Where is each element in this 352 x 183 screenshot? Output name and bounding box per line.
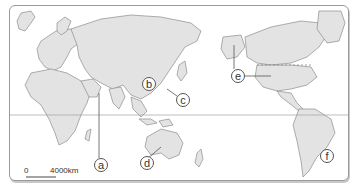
land-alaska [221,35,245,59]
map-label-c: c [176,93,190,107]
land-south-america [293,109,335,177]
map-label-b: b [142,77,156,91]
scale-start-label: 0 [24,166,28,175]
map-label-a: a [94,158,108,172]
map-frame: a b c d e f 0 4000km [9,5,349,181]
scale-end-label: 4000km [50,166,78,175]
land-greenland-west [17,11,35,31]
leader-c [167,89,177,96]
land-australia [145,129,183,159]
map-label-f: f [320,149,334,163]
land-africa [25,69,91,145]
map-label-d: d [140,156,154,170]
land-india [109,87,125,109]
map-label-e: e [231,69,245,83]
land-canada [245,21,327,65]
land-usa [255,65,317,91]
